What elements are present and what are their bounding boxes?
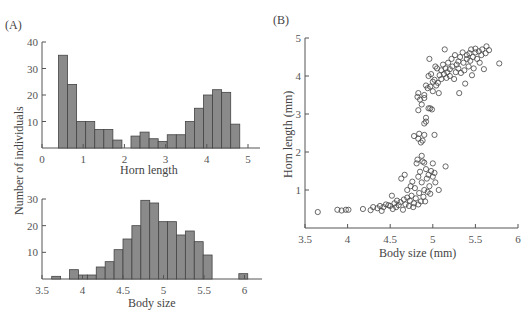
scatter-point [473,50,478,55]
scatter-point [462,68,467,73]
histogram-bar [239,274,248,279]
scatter-point [419,180,424,185]
y-tick-label: 5 [281,32,301,44]
scatter-point [481,67,486,72]
histogram-bar [176,135,185,148]
scatter-point [410,179,415,184]
y-tick-label: 1 [281,184,301,196]
scatter-point [412,186,417,191]
x-tick-label: 4 [80,284,86,296]
histogram-bar [68,84,77,148]
histogram-bar [141,200,150,279]
x-tick-label: 4 [345,233,351,245]
histogram-bar [86,122,95,149]
y-tick-label: 10 [18,246,38,258]
x-tick-label: 5 [161,284,167,296]
y-tick-label: 20 [18,220,38,232]
scatter-point [416,91,421,96]
x-tick-label: 3.5 [35,284,49,296]
x-tick-label: 6 [515,233,521,245]
scatter-point [483,51,488,56]
histogram-bar [222,92,231,148]
y-tick-label: 20 [18,89,38,101]
histogram-bar [149,139,158,148]
y-tick-label: 4 [281,70,301,82]
histogram-bar [87,275,96,279]
scatter-point [400,207,405,212]
histogram-bar [104,129,113,148]
x-tick-label: 5.5 [197,284,211,296]
scatter-point [436,187,441,192]
scatter-point [398,200,403,205]
histogram-bar [213,90,222,148]
scatter-point [433,180,438,185]
histogram-bar [52,276,61,279]
scatter-point [442,47,447,52]
scatter-point [422,132,427,137]
scatter-point [422,160,427,165]
scatter-point [432,132,437,137]
y-tick-label: 30 [18,193,38,205]
histogram-bar [113,140,122,148]
x-tick-label: 4.5 [383,233,397,245]
y-tick-label: 10 [18,116,38,128]
y-tick-label: 2 [281,146,301,158]
scatter-point [403,202,408,207]
histogram-bar [168,222,177,279]
scatter-point [416,174,421,179]
histogram-bar [204,95,213,148]
x-tick-label: 6 [242,284,248,296]
scatter-point [416,108,421,113]
scatter-point [413,196,418,201]
scatter-point [436,91,441,96]
histogram-bar [105,262,114,279]
scatter-point [415,157,420,162]
scatter-point [466,64,471,69]
scatter-point [477,60,482,65]
scatter-point [389,193,394,198]
histogram-bar [123,239,132,279]
scatter-point [427,56,432,61]
histogram-bar [185,122,194,149]
x-tick-label: 4.5 [116,284,130,296]
scatter-point [430,161,435,166]
histogram-bar [231,124,240,148]
x-tick-label: 3 [163,153,169,165]
x-tick-label: 4 [204,153,210,165]
histogram-bar [131,136,140,148]
scatter-point [423,167,428,172]
histogram-bar [132,226,141,279]
y-tick-label: 40 [18,36,38,48]
histogram-bar [96,267,105,279]
histogram-bar [70,270,79,279]
scatter-point [471,66,476,71]
histogram-bar [176,235,185,279]
y-tick-label: 3 [281,108,301,120]
scatter-point [497,61,502,66]
x-tick-label: 1 [80,153,86,165]
histogram-bar [203,255,212,279]
scatter-point [427,184,432,189]
scatter-point [463,81,468,86]
scatter-point [429,107,434,112]
scatter-point [402,172,407,177]
histogram-bar [150,203,159,279]
histogram-bar [159,222,168,279]
histogram-bar [58,55,67,148]
scatter-point [458,70,463,75]
x-tick-label: 2 [122,153,128,165]
scatter-point [452,76,457,81]
histogram-bar [77,122,86,149]
scatter-point [315,209,320,214]
histogram-bar [114,250,123,279]
scatter-point [419,153,424,158]
histogram-bar [185,231,194,279]
x-tick-label: 5 [245,153,251,165]
scatter-point [469,73,474,78]
scatter-point [443,164,448,169]
histogram-bar [140,132,149,148]
x-tick-label: 0 [39,153,45,165]
x-tick-label: 3.5 [298,233,312,245]
scatter-point [452,53,457,58]
scatter-point [453,70,458,75]
